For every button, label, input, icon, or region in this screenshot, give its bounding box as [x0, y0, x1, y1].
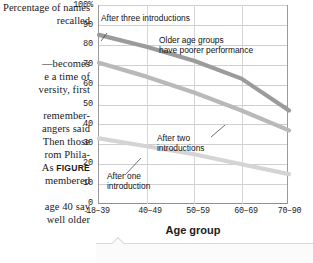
y-tick-label: 80: [56, 39, 93, 49]
annotation-after-two-introductions: After two introductions: [157, 134, 205, 153]
chart-plot-area: After three introductions Older age grou…: [98, 5, 288, 204]
x-tick-label: 18–39: [70, 206, 126, 216]
x-tick-label: 40–49: [126, 206, 174, 216]
y-axis-tick-labels: 100% 90 80 70 60 50 40 30 20 10 0: [56, 0, 93, 215]
x-tick-label: 50–59: [174, 206, 222, 216]
x-axis-title: Age group: [98, 224, 288, 236]
y-tick-label: 70: [56, 59, 93, 69]
x-tick-label: 60–69: [222, 206, 270, 216]
y-tick-label: 20: [56, 158, 93, 168]
y-tick-label: 10: [56, 178, 93, 188]
annotation-after-three-introductions: After three introductions: [101, 14, 190, 24]
y-tick-label: 50: [56, 99, 93, 109]
y-tick-label: 100%: [56, 0, 93, 10]
y-tick-label: 30: [56, 138, 93, 148]
callout-notch-icon: [112, 237, 126, 245]
x-axis-tick-labels: 18–39 40–49 50–59 60–69 70–90: [70, 206, 313, 219]
bottom-callout-strip: [96, 243, 313, 263]
annotation-older-age-groups: Older age groups have poorer performance: [159, 36, 253, 55]
y-tick-label: 40: [56, 119, 93, 129]
y-tick-label: 90: [56, 20, 93, 30]
y-tick-label: 60: [56, 79, 93, 89]
x-tick-label: 70–90: [266, 206, 313, 216]
annotation-after-one-introduction: After one introduction: [107, 172, 150, 191]
